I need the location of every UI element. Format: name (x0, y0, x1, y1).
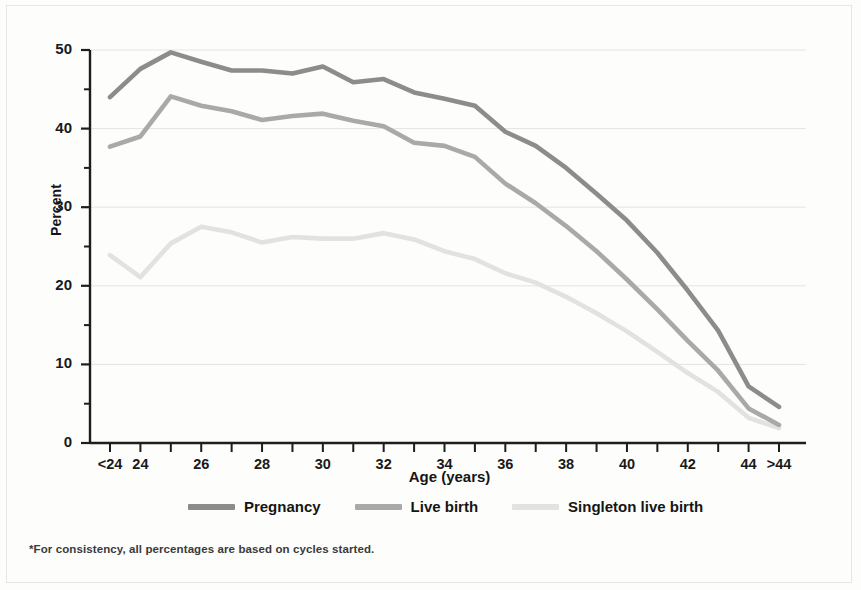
figure-container: Percent Age (years) 01020304050<24242628… (0, 0, 861, 590)
x-tick-label: 38 (536, 456, 596, 472)
y-tick-label: 50 (32, 40, 72, 57)
chart-legend: PregnancyLive birthSingleton live birth (0, 498, 861, 515)
x-tick-label: 36 (475, 456, 535, 472)
x-tick-label: 40 (597, 456, 657, 472)
x-tick-label: 34 (415, 456, 475, 472)
x-tick-label: 26 (171, 456, 231, 472)
y-tick-label: 10 (32, 354, 72, 371)
x-tick-label: >44 (749, 456, 809, 472)
x-tick-label: 30 (293, 456, 353, 472)
x-tick-label: 24 (110, 456, 170, 472)
footnote: *For consistency, all percentages are ba… (29, 543, 374, 555)
legend-swatch-icon (355, 504, 402, 510)
series-line-singleton-live-birth (110, 227, 779, 428)
legend-swatch-icon (188, 504, 235, 510)
y-tick-label: 0 (32, 433, 72, 450)
legend-item: Pregnancy (188, 498, 321, 515)
x-tick-label: 32 (354, 456, 414, 472)
y-tick-label: 30 (32, 197, 72, 214)
legend-label: Pregnancy (244, 498, 321, 515)
legend-item: Live birth (355, 498, 479, 515)
y-tick-label: 20 (32, 276, 72, 293)
legend-swatch-icon (512, 504, 559, 510)
legend-item: Singleton live birth (512, 498, 703, 515)
y-tick-label: 40 (32, 119, 72, 136)
series-line-live-birth (110, 96, 779, 425)
x-tick-label: 42 (658, 456, 718, 472)
legend-label: Singleton live birth (568, 498, 703, 515)
x-tick-label: 28 (232, 456, 292, 472)
legend-label: Live birth (411, 498, 479, 515)
